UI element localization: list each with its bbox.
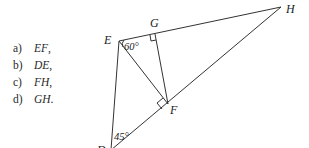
point-label-F: F: [169, 103, 178, 117]
point-label-H: H: [285, 2, 296, 16]
angle-label-E: 60°: [124, 41, 140, 52]
line-GF: [155, 34, 168, 104]
line-HD: [111, 7, 281, 148]
angle-label-D: 45°: [114, 131, 130, 142]
point-label-E: E: [103, 33, 112, 47]
line-EH: [119, 7, 281, 41]
point-label-D: D: [96, 143, 106, 148]
geometry-figure: E G H F D 60° 45°: [0, 0, 309, 148]
point-label-G: G: [150, 16, 159, 30]
